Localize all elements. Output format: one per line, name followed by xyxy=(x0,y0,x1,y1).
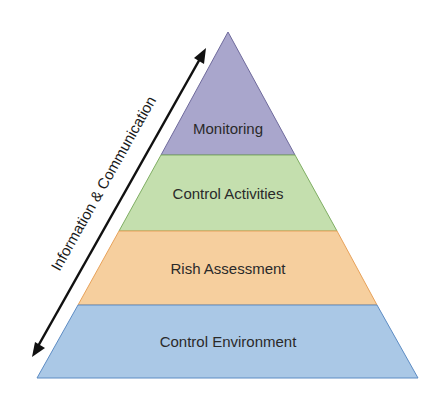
layer-label-monitoring: Monitoring xyxy=(193,120,263,137)
layer-label-control-environment: Control Environment xyxy=(160,333,298,350)
pyramid-diagram: Monitoring Control Activities Rish Asses… xyxy=(0,0,445,393)
layer-label-risk-assessment: Rish Assessment xyxy=(170,260,286,277)
layer-label-control-activities: Control Activities xyxy=(173,185,284,202)
